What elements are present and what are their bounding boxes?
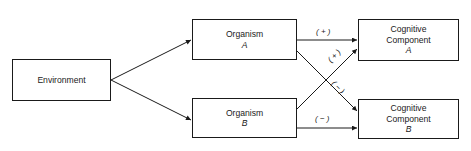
edge-label-organism-a-cognitive-a: ( + ): [316, 27, 330, 36]
organism-a-label: Organism: [226, 29, 263, 40]
organism-b-node: Organism B: [192, 98, 297, 138]
edge-environment-organism-b: [111, 80, 191, 120]
edge-environment-organism-a: [111, 40, 191, 80]
cognitive-b-line1: Cognitive: [391, 103, 427, 114]
environment-label: Environment: [37, 75, 85, 86]
cognitive-b-line2: Component: [386, 114, 430, 125]
environment-node: Environment: [12, 59, 111, 101]
cognitive-a-line2: Component: [386, 35, 430, 46]
cognitive-b-sub: B: [406, 124, 412, 135]
cognitive-a-line1: Cognitive: [391, 24, 427, 35]
organism-b-sub: B: [242, 118, 248, 129]
organism-a-node: Organism A: [192, 19, 297, 60]
cognitive-b-node: Cognitive Component B: [358, 99, 459, 139]
organism-b-label: Organism: [226, 108, 263, 119]
organism-a-sub: A: [242, 40, 248, 51]
edge-label-organism-b-cognitive-b: ( − ): [315, 114, 329, 123]
cognitive-a-sub: A: [406, 45, 412, 56]
cognitive-a-node: Cognitive Component A: [358, 19, 459, 61]
